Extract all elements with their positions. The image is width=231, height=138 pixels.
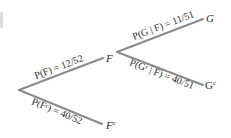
prob-label-Gc-given-F: P(Gᶜ | F) = 40/51 xyxy=(128,57,196,93)
probability-tree-diagram: P(F) = 12/52 P(Fᶜ) = 40/52 P(G | F) = 11… xyxy=(0,0,231,138)
node-F: F xyxy=(105,52,113,64)
node-G: G xyxy=(206,12,214,24)
prob-label-Fc: P(Fᶜ) = 40/52 xyxy=(30,96,84,128)
node-Gc: Gc xyxy=(205,79,216,91)
node-Fc: Fc xyxy=(105,119,116,131)
